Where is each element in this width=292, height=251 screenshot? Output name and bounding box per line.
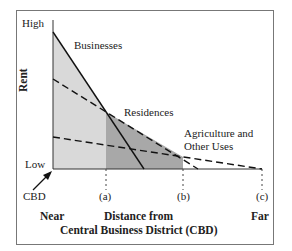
x-label-line1: Distance from (104, 210, 173, 222)
residences-label: Residences (124, 106, 173, 118)
agriculture-label-1: Agriculture and (184, 127, 253, 139)
y-low-label: Low (25, 158, 45, 170)
residence-zone (106, 112, 183, 169)
tick-a-label: (a) (99, 190, 111, 202)
tick-b-label: (b) (177, 190, 190, 202)
agriculture-label-2: Other Uses (184, 140, 233, 152)
x-near-label: Near (40, 210, 64, 222)
businesses-label: Businesses (74, 39, 122, 51)
y-high-label: High (22, 17, 44, 29)
x-label-line2: Central Business District (CBD) (60, 224, 217, 236)
cbd-label: CBD (23, 190, 46, 202)
x-far-label: Far (251, 210, 269, 222)
y-axis-label: Rent (17, 68, 29, 92)
tick-c-label: (c) (256, 190, 268, 202)
